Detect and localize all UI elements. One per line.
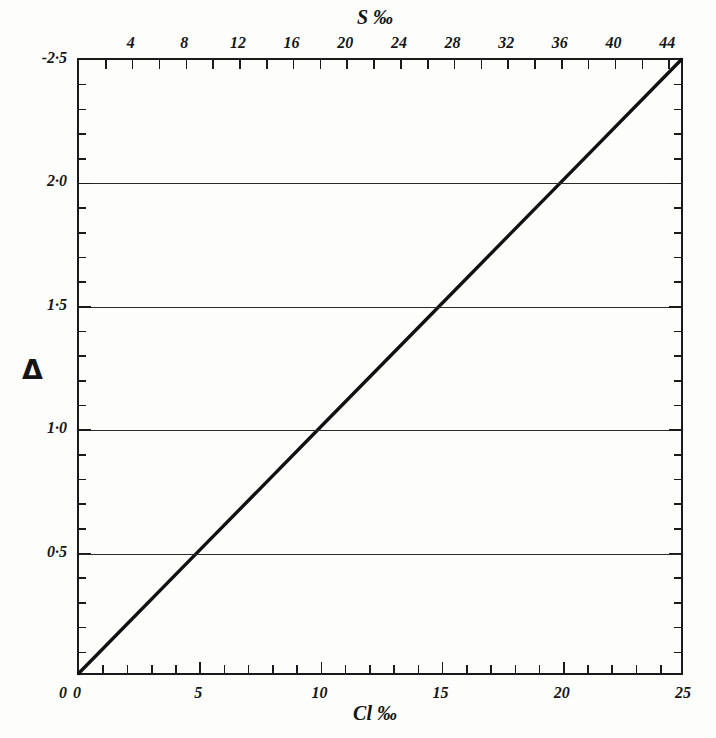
x-tick-7: [248, 665, 250, 673]
y-minor-tick-right-0.8: [674, 479, 681, 481]
data-series-line: [79, 60, 681, 673]
x-tick-17: [490, 665, 492, 673]
y-tick-right-1.0: [669, 429, 681, 431]
gridline-1: [79, 430, 681, 431]
top-tick-20: [346, 60, 348, 69]
top-tick-28: [454, 60, 456, 69]
top-tick-30: [481, 60, 483, 69]
top-tick-2: [105, 60, 107, 69]
y-tick-label-1-0: 1·0: [19, 420, 67, 436]
y-minor-tick-1.8: [79, 232, 86, 234]
top-tick-label-40: 40: [606, 35, 622, 51]
y-minor-tick-0.7: [79, 503, 86, 505]
x-tick-16: [466, 665, 468, 673]
top-tick-label-24: 24: [391, 35, 407, 51]
top-tick-10: [212, 60, 214, 69]
x-tick-14: [418, 665, 420, 673]
top-tick-40: [615, 60, 617, 69]
y-minor-tick-right-0.9: [674, 454, 681, 456]
top-tick-36: [561, 60, 563, 69]
top-tick-label-4: 4: [127, 35, 135, 51]
x-tick-label-0: 0: [73, 685, 81, 701]
x-tick-2: [127, 665, 129, 673]
x-tick-label-15: 15: [433, 685, 449, 701]
y-minor-tick-right-0.7: [674, 503, 681, 505]
y-minor-tick-0.2: [79, 627, 86, 629]
x-axis-title: Cl ‰: [353, 702, 397, 725]
x-tick-5: [199, 662, 201, 673]
x-tick-8: [272, 665, 274, 673]
x-tick-23: [636, 665, 638, 673]
x-tick-11: [345, 665, 347, 673]
y-minor-tick-right-2.2: [674, 133, 681, 135]
top-tick-26: [427, 60, 429, 69]
y-minor-tick-right-1.8: [674, 232, 681, 234]
top-tick-22: [373, 60, 375, 69]
y-minor-tick-right-1.7: [674, 257, 681, 259]
y-minor-tick-right-1.9: [674, 207, 681, 209]
top-tick-4: [132, 60, 134, 69]
y-minor-tick-1.4: [79, 331, 86, 333]
x-tick-20: [563, 662, 565, 673]
top-tick-24: [400, 60, 402, 69]
y-minor-tick-0.4: [79, 577, 86, 579]
figure-canvas: S ‰ Δ Cl ‰ 05101520254812162024283236404…: [0, 0, 716, 738]
y-minor-tick-1.2: [79, 380, 86, 382]
x-tick-10: [321, 662, 323, 673]
y-minor-tick-0.3: [79, 602, 86, 604]
y-minor-tick-right-0.6: [674, 528, 681, 530]
y-tick-label-2-5: -2·5: [19, 50, 67, 66]
top-tick-label-12: 12: [230, 35, 246, 51]
plot-area: [77, 58, 683, 675]
y-minor-tick-1.6: [79, 281, 86, 283]
y-minor-tick-right-2.3: [674, 109, 681, 111]
top-tick-14: [266, 60, 268, 69]
x-tick-24: [660, 665, 662, 673]
top-tick-16: [293, 60, 295, 69]
x-tick-1: [102, 665, 104, 673]
x-tick-19: [539, 665, 541, 673]
y-tick-1.5: [79, 306, 91, 308]
x-tick-4: [175, 665, 177, 673]
y-minor-tick-right-0.3: [674, 602, 681, 604]
y-minor-tick-right-0.2: [674, 627, 681, 629]
gridline-1-5: [79, 307, 681, 308]
y-tick-label-0: 0: [59, 685, 67, 701]
y-minor-tick-right-0.1: [674, 652, 681, 654]
x-tick-label-5: 5: [194, 685, 202, 701]
x-tick-12: [369, 665, 371, 673]
x-tick-label-10: 10: [311, 685, 327, 701]
top-tick-12: [239, 60, 241, 69]
top-tick-44: [668, 60, 670, 69]
y-minor-tick-0.1: [79, 652, 86, 654]
top-tick-label-36: 36: [552, 35, 568, 51]
gridline-2: [79, 183, 681, 184]
x-tick-9: [296, 665, 298, 673]
y-minor-tick-2.4: [79, 84, 86, 86]
y-minor-tick-0.8: [79, 479, 86, 481]
y-minor-tick-right-1.1: [674, 405, 681, 407]
x-tick-22: [611, 665, 613, 673]
x-tick-3: [151, 665, 153, 673]
top-tick-label-20: 20: [337, 35, 353, 51]
y-minor-tick-right-1.3: [674, 355, 681, 357]
y-minor-tick-right-2.4: [674, 84, 681, 86]
top-tick-42: [642, 60, 644, 69]
x-tick-15: [442, 662, 444, 673]
y-minor-tick-right-0.4: [674, 577, 681, 579]
y-minor-tick-0.6: [79, 528, 86, 530]
x-tick-label-20: 20: [554, 685, 570, 701]
series-line-0: [79, 60, 681, 673]
top-tick-label-44: 44: [659, 35, 675, 51]
y-minor-tick-right-2.1: [674, 158, 681, 160]
gridline-0-5: [79, 554, 681, 555]
y-minor-tick-2.3: [79, 109, 86, 111]
y-tick-right-1.5: [669, 306, 681, 308]
y-minor-tick-1.3: [79, 355, 86, 357]
y-tick-label-1-5: 1·5: [19, 297, 67, 313]
top-tick-6: [159, 60, 161, 69]
top-tick-32: [507, 60, 509, 69]
top-tick-8: [186, 60, 188, 69]
y-tick-2.0: [79, 183, 91, 185]
y-minor-tick-right-1.2: [674, 380, 681, 382]
